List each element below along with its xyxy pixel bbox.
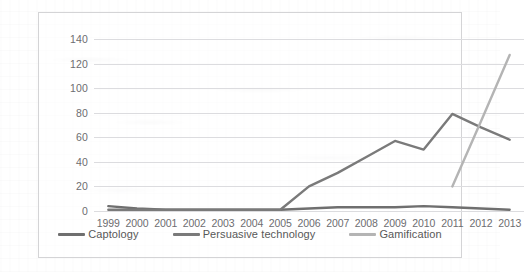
legend-label: Persuasive technology [203, 228, 316, 240]
x-axis-tick-label: 2013 [498, 217, 521, 229]
series-line [452, 55, 509, 186]
legend-color-swatch [58, 233, 85, 236]
chart-legend: CaptologyPersuasive technologyGamificati… [38, 228, 462, 240]
y-axis-tick-label: 0 [82, 205, 88, 217]
y-axis-tick-label: 100 [70, 82, 88, 94]
legend-color-swatch [349, 233, 376, 236]
y-axis-tick-label: 140 [70, 33, 88, 45]
legend-label: Captology [88, 228, 138, 240]
y-axis-tick-label: 20 [76, 180, 88, 192]
legend-item[interactable]: Persuasive technology [173, 228, 316, 240]
x-axis-tick-label: 2012 [470, 217, 493, 229]
legend-label: Gamification [379, 228, 441, 240]
legend-item[interactable]: Captology [58, 228, 138, 240]
y-axis-tick-label: 60 [76, 131, 88, 143]
gridline [94, 211, 524, 212]
series-lines [94, 39, 524, 211]
legend-item[interactable]: Gamification [349, 228, 441, 240]
y-axis-tick-label: 120 [70, 58, 88, 70]
chart-frame: 020406080100120140 199920002001200220032… [38, 12, 462, 258]
plot-area: 020406080100120140 199920002001200220032… [94, 39, 524, 211]
y-axis-tick-label: 80 [76, 107, 88, 119]
legend-color-swatch [173, 233, 200, 236]
series-line [108, 114, 509, 210]
y-axis-tick-label: 40 [76, 156, 88, 168]
